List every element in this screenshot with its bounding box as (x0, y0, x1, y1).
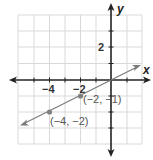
point-label-neg2-neg1: (−2, −1) (83, 93, 122, 105)
coordinate-plane: y x −4 −2 2 (−2, −1) (−4, −2) (0, 0, 153, 160)
line-start-arrow-icon (132, 65, 141, 71)
y-axis-label: y (116, 2, 125, 16)
y-tick-label-2: 2 (98, 41, 104, 53)
x-axis-label: x (142, 63, 151, 77)
line-end-arrow-icon (20, 120, 29, 126)
x-tick-label-neg4: −4 (42, 83, 55, 95)
point-label-neg4-neg2: (−4, −2) (50, 115, 89, 127)
point-neg4-neg2 (47, 109, 52, 114)
